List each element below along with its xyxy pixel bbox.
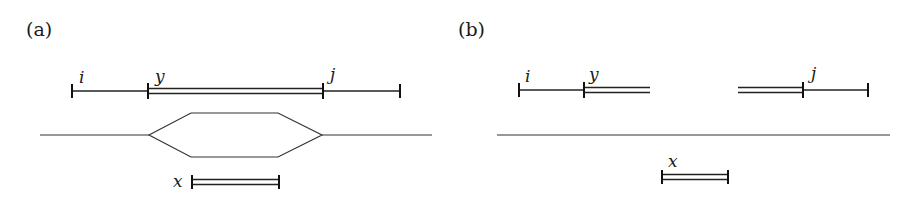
panel-b: (b) i y j x bbox=[458, 18, 890, 184]
panel-b-segment-x: x bbox=[662, 151, 728, 184]
label-i: i bbox=[525, 66, 530, 86]
panel-b-interval-row: i y j bbox=[519, 63, 868, 98]
panel-a-interval-row: i y j bbox=[72, 64, 400, 99]
label-x: x bbox=[668, 151, 678, 171]
label-i: i bbox=[79, 67, 84, 87]
label-y: y bbox=[154, 66, 165, 86]
panel-a-label: (a) bbox=[26, 18, 52, 40]
label-j: j bbox=[807, 63, 817, 83]
panel-a-bubble-path bbox=[40, 113, 432, 157]
label-j: j bbox=[326, 64, 336, 84]
panel-a-segment-x: x bbox=[173, 171, 279, 191]
panel-b-label: (b) bbox=[458, 18, 485, 40]
label-y: y bbox=[588, 64, 599, 84]
figure: (a) i y j x bbox=[0, 0, 923, 199]
panel-a: (a) i y j x bbox=[26, 18, 432, 191]
label-x: x bbox=[173, 171, 183, 191]
bubble-hexagon bbox=[149, 113, 322, 157]
